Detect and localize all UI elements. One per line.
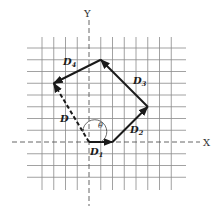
vector-diagram: X Y θ D1 D2 D3 D4 D: [0, 0, 218, 217]
theta-arc: [83, 120, 107, 142]
grid: [27, 37, 186, 190]
y-axis-label: Y: [83, 8, 91, 19]
label-d4: D4: [62, 56, 77, 69]
theta-label: θ: [98, 121, 103, 130]
x-axis-label: X: [203, 137, 211, 148]
label-d3: D3: [132, 75, 147, 88]
label-d: D: [59, 113, 69, 124]
